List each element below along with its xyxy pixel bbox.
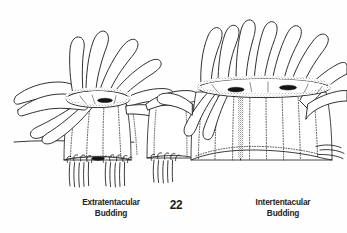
- mouth-opening-secondary: [279, 85, 296, 90]
- caption-extratentacular-budding: Extratentacular Budding: [57, 197, 166, 218]
- right-polyp-oral-disc: [198, 77, 330, 98]
- caption-left-line-2: Budding: [57, 208, 166, 219]
- figure-number: 22: [156, 198, 196, 212]
- figure-container: .ink { fill:none; stroke:#1a1a1a; stroke…: [0, 0, 347, 233]
- left-polyp-oral-disc: [66, 89, 130, 108]
- caption-right-line-2: Budding: [229, 208, 338, 219]
- caption-intertentacular-budding: Intertentacular Budding: [229, 197, 338, 218]
- caption-left-line-1: Extratentacular: [57, 197, 166, 208]
- mouth-opening-primary: [228, 87, 244, 92]
- caption-right-line-1: Intertentacular: [229, 197, 338, 208]
